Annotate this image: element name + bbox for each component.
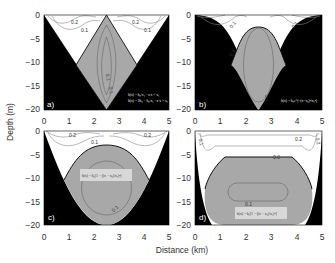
contour-label: 0.2 bbox=[315, 137, 322, 145]
y-tick: −15 bbox=[26, 197, 41, 207]
x-tick: 5 bbox=[320, 116, 325, 126]
contour-label: 0.1 bbox=[245, 201, 252, 207]
y-tick: −10 bbox=[26, 173, 41, 183]
x-axis-b: 0 1 2 3 4 5 bbox=[193, 116, 325, 126]
y-tick: 0 bbox=[35, 10, 40, 20]
panel-d: 0.2 0.2 0.1 0.1 0.0 h(x) = h₀[1 − ((x − … bbox=[195, 131, 322, 225]
contour-label: 0.1 bbox=[108, 86, 115, 94]
x-tick: 1 bbox=[218, 232, 223, 242]
x-tick: 5 bbox=[320, 232, 325, 242]
y-axis-a: 0 −5 −10 −15 −20 bbox=[26, 10, 41, 114]
x-tick: 2 bbox=[244, 232, 249, 242]
x-tick: 3 bbox=[117, 116, 122, 126]
contour-label: 0.2 bbox=[144, 132, 151, 138]
y-tick: −15 bbox=[177, 197, 192, 207]
panel-label: d) bbox=[199, 213, 206, 222]
contour-label: 0.2 bbox=[132, 19, 139, 25]
equation: h(x) = 2h₀ − h₀/x₁ · x x > x₁ bbox=[128, 99, 168, 103]
x-tick: 0 bbox=[193, 232, 198, 242]
contour-label: 0.1 bbox=[81, 27, 88, 33]
equation: h(x) = h₀/x₁ · x x < x₁ bbox=[128, 93, 159, 97]
x-axis-d: 0 1 2 3 4 5 bbox=[193, 232, 325, 242]
equation: h(x) = h₀[1 − ((x − x₀)/x₁)⁴] bbox=[237, 212, 277, 216]
y-tick: −5 bbox=[181, 150, 191, 160]
y-axis-d: 0 −5 −10 −15 −20 bbox=[177, 126, 192, 230]
x-tick: 3 bbox=[269, 232, 274, 242]
contour-label: 0.1 bbox=[264, 94, 271, 102]
y-tick: −20 bbox=[177, 104, 192, 114]
x-tick: 4 bbox=[295, 116, 300, 126]
figure: 0.2 0.1 0.2 0.1 0.1 0.1 h(x) = h₀/x₁ · x… bbox=[0, 0, 335, 263]
contour-label: 0.1 bbox=[198, 138, 205, 146]
x-axis-c: 0 1 2 3 4 5 bbox=[42, 232, 172, 242]
contour-label: 0.2 bbox=[71, 19, 78, 25]
x-axis-a: 0 1 2 3 4 5 bbox=[42, 116, 172, 126]
equation: h(x) = h₀[1 − ((x − x₀)/x₁)²] bbox=[82, 174, 121, 178]
x-tick: 1 bbox=[218, 116, 223, 126]
y-tick: −15 bbox=[177, 81, 192, 91]
x-tick: 4 bbox=[142, 116, 147, 126]
y-tick: −20 bbox=[177, 220, 192, 230]
x-tick: 4 bbox=[142, 232, 147, 242]
contour-label: 0.1 bbox=[105, 73, 112, 81]
x-tick: 0 bbox=[193, 116, 198, 126]
x-tick: 3 bbox=[269, 116, 274, 126]
panel-b: 0.1 0.1 0.1 0.1 h(x) = h₀e^(−(x−x₀)²/x₁²… bbox=[195, 15, 322, 110]
x-tick: 0 bbox=[42, 116, 47, 126]
equation: h(x) = h₀e^(−(x−x₀)²/x₁²) bbox=[281, 99, 318, 103]
contour-label: 0.2 bbox=[295, 136, 302, 142]
y-axis-b: 0 −5 −10 −15 −20 bbox=[177, 10, 192, 114]
x-tick: 3 bbox=[117, 232, 122, 242]
x-tick: 1 bbox=[67, 232, 72, 242]
contour-label: 0.1 bbox=[91, 139, 98, 145]
panel-label: a) bbox=[47, 100, 54, 109]
y-axis-label: Depth (m) bbox=[5, 103, 15, 141]
y-axis-c: 0 −5 −10 −15 −20 bbox=[26, 126, 41, 230]
y-tick: 0 bbox=[186, 126, 191, 136]
y-tick: −20 bbox=[26, 104, 41, 114]
x-tick: 5 bbox=[167, 116, 172, 126]
y-tick: −5 bbox=[30, 150, 40, 160]
y-tick: −20 bbox=[26, 220, 41, 230]
contour-label: 0.0 bbox=[273, 154, 280, 160]
y-tick: 0 bbox=[186, 10, 191, 20]
x-tick: 2 bbox=[92, 116, 97, 126]
x-tick: 1 bbox=[67, 116, 72, 126]
contour-label: 0.2 bbox=[69, 132, 76, 138]
panel-label: c) bbox=[48, 213, 55, 222]
x-tick: 4 bbox=[295, 232, 300, 242]
panel-label: b) bbox=[199, 100, 206, 109]
x-tick: 2 bbox=[244, 116, 249, 126]
x-tick: 0 bbox=[42, 232, 47, 242]
y-tick: −15 bbox=[26, 81, 41, 91]
x-tick: 5 bbox=[167, 232, 172, 242]
panel-c: 0.2 0.2 0.1 0.1 h(x) = h₀[1 − ((x − x₀)/… bbox=[44, 131, 169, 225]
y-tick: −10 bbox=[26, 57, 41, 67]
y-tick: 0 bbox=[35, 126, 40, 136]
panel-a: 0.2 0.1 0.2 0.1 0.1 0.1 h(x) = h₀/x₁ · x… bbox=[44, 15, 169, 110]
y-tick: −5 bbox=[181, 34, 191, 44]
contour-label: 0.1 bbox=[144, 27, 151, 33]
y-tick: −10 bbox=[177, 57, 192, 67]
x-tick: 2 bbox=[92, 232, 97, 242]
y-tick: −5 bbox=[30, 34, 40, 44]
y-tick: −10 bbox=[177, 173, 192, 183]
x-axis-label: Distance (km) bbox=[156, 245, 209, 255]
